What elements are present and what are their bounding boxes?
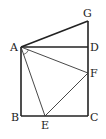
segment-ae: [21, 47, 45, 116]
label-c: C: [90, 111, 98, 124]
label-b: B: [11, 111, 19, 124]
label-e: E: [41, 119, 49, 132]
label-a: A: [9, 41, 19, 54]
label-f: F: [90, 67, 98, 80]
angle-mark-a: [24, 50, 29, 55]
label-d: D: [90, 41, 99, 54]
segment-af: [21, 47, 88, 73]
segment-ef: [45, 73, 88, 116]
segment-ag: [21, 21, 88, 47]
geometry-diagram: A B C D E F G: [0, 0, 106, 139]
label-g: G: [83, 7, 92, 20]
